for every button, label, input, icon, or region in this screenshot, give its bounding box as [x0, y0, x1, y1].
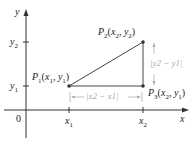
y-axis-arrow-icon: [24, 9, 29, 16]
x2-tick-label: x2: [139, 116, 147, 129]
y2-tick-label: y2: [10, 37, 18, 50]
point-p2-label: P2(x2, y2): [98, 27, 135, 40]
origin-label: 0: [16, 114, 21, 124]
y1-tick-label: y1: [10, 81, 18, 94]
vertical-distance-label: |y2 − y1|: [150, 59, 183, 68]
y-axis-label: y: [15, 7, 19, 17]
segment-p1-p2: [69, 42, 143, 86]
x1-tick-label: x1: [65, 116, 73, 129]
x-axis-label: x: [180, 114, 184, 124]
diagram-canvas: [0, 0, 192, 142]
point-p1-label: P1(x1, y1): [32, 72, 69, 85]
point-p2: [141, 40, 145, 44]
x-axis-arrow-icon: [182, 108, 189, 113]
point-p3: [141, 84, 145, 88]
horizontal-distance-label: |x2 − x1|: [86, 92, 119, 101]
point-p3-label: P3(x2, y1): [148, 88, 185, 101]
